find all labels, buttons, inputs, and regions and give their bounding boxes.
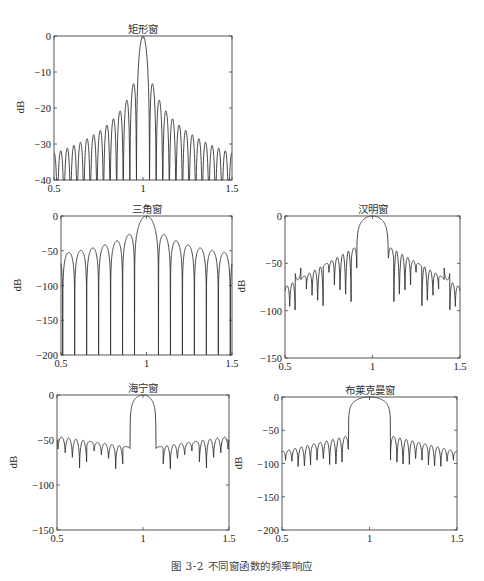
chart-title: 三角窗 <box>61 201 232 216</box>
x-tick-label: 1.5 <box>222 533 235 544</box>
x-tick-label: 1.5 <box>450 533 463 544</box>
axes-box <box>57 395 229 530</box>
y-axis-label: dB <box>14 101 26 114</box>
y-tick-label: −150 <box>32 525 54 536</box>
y-tick-label: −100 <box>260 306 282 317</box>
chart-title: 布莱克曼窗 <box>282 382 457 397</box>
axes-box <box>61 216 232 355</box>
y-tick-label: −30 <box>35 139 51 150</box>
x-tick-label: 0.5 <box>50 533 63 544</box>
y-tick-label: −40 <box>35 175 51 186</box>
figure-caption: 图 3-2 不同窗函数的频率响应 <box>0 558 484 573</box>
x-tick-label: 1 <box>367 533 372 544</box>
y-tick-label: −200 <box>257 525 279 536</box>
x-tick-label: 1 <box>144 358 149 369</box>
x-tick-label: 1 <box>370 361 375 372</box>
x-tick-label: 0.5 <box>278 361 291 372</box>
axes-box <box>54 36 232 180</box>
frequency-response-curve <box>61 216 232 355</box>
y-tick-label: −50 <box>263 425 279 436</box>
y-axis-label: dB <box>232 456 244 469</box>
chart-title: 汉明窗 <box>285 201 460 216</box>
y-tick-label: −200 <box>36 350 58 361</box>
y-tick-label: 0 <box>274 392 279 403</box>
x-tick-label: 1 <box>140 533 145 544</box>
y-tick-label: −50 <box>38 435 54 446</box>
chart-title: 海宁窗 <box>57 380 229 395</box>
y-tick-label: 0 <box>46 31 51 42</box>
y-tick-label: 0 <box>49 390 54 401</box>
y-tick-label: −150 <box>257 492 279 503</box>
x-tick-label: 1.5 <box>225 183 238 194</box>
frequency-response-curve <box>54 36 232 180</box>
y-tick-label: −100 <box>36 281 58 292</box>
x-tick-label: 0.5 <box>275 533 288 544</box>
x-tick-label: 0.5 <box>47 183 60 194</box>
chart-title: 矩形窗 <box>54 21 232 36</box>
x-tick-label: 1.5 <box>453 361 466 372</box>
y-axis-label: dB <box>7 455 19 468</box>
axes-box <box>282 397 457 530</box>
axes-box <box>285 216 460 358</box>
y-tick-label: −150 <box>36 315 58 326</box>
y-axis-label: dB <box>235 280 247 293</box>
x-tick-label: 1 <box>140 183 145 194</box>
y-tick-label: −50 <box>266 258 282 269</box>
y-axis-label: dB <box>11 278 23 291</box>
y-tick-label: 0 <box>277 211 282 222</box>
frequency-response-curve <box>285 216 460 310</box>
y-tick-label: −100 <box>32 480 54 491</box>
y-tick-label: 0 <box>53 211 58 222</box>
y-tick-label: −150 <box>260 353 282 364</box>
frequency-response-curve <box>282 397 457 466</box>
y-tick-label: −10 <box>35 67 51 78</box>
y-tick-label: −100 <box>257 459 279 470</box>
y-tick-label: −20 <box>35 103 51 114</box>
frequency-response-curve <box>57 395 229 469</box>
y-tick-label: −50 <box>42 246 58 257</box>
x-tick-label: 0.5 <box>54 358 67 369</box>
x-tick-label: 1.5 <box>225 358 238 369</box>
